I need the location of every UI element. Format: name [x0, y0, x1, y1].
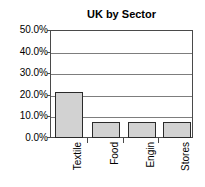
x-label-engin: Engin	[146, 142, 156, 168]
bars-layer	[50, 30, 193, 138]
y-tick-label-0: 0.0%	[2, 133, 48, 143]
y-tick-label-10: 10.0%	[2, 111, 48, 121]
x-label-food-text: Food	[110, 142, 120, 165]
y-tick-label-50: 50.0%	[2, 25, 48, 35]
y-axis: 50.0% 40.0% 30.0% 20.0% 10.0% 0.0%	[0, 30, 48, 138]
x-axis-labels: Textile Food Engin Stores	[50, 142, 193, 187]
bar-chart: UK by Sector 50.0% 40.0% 30.0% 20.0% 10.…	[0, 0, 205, 187]
y-tick-label-40: 40.0%	[2, 47, 48, 57]
bar-engin[interactable]	[128, 122, 156, 138]
bar-stores[interactable]	[163, 122, 191, 138]
x-label-textile: Textile	[73, 142, 83, 170]
x-label-stores: Stores	[181, 142, 191, 171]
y-tick-label-30: 30.0%	[2, 68, 48, 78]
y-tick-label-20: 20.0%	[2, 90, 48, 100]
bar-food[interactable]	[92, 122, 120, 138]
x-label-food: Food	[110, 142, 120, 165]
bar-textile[interactable]	[55, 92, 83, 138]
x-label-engin-text: Engin	[146, 142, 156, 168]
x-label-stores-text: Stores	[181, 142, 191, 171]
x-label-textile-text: Textile	[73, 142, 83, 170]
chart-title: UK by Sector	[50, 8, 193, 21]
